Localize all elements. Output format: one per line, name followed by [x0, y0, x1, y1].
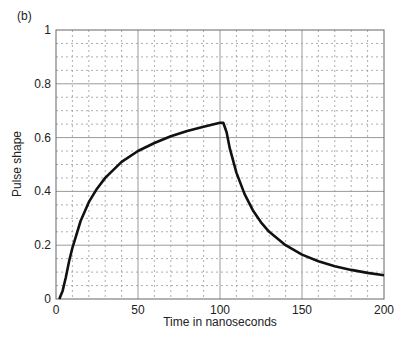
y-axis-label: Pulse shape: [10, 131, 24, 197]
x-tick-label: 200: [374, 303, 394, 317]
y-tick-label: 0.4: [34, 184, 51, 198]
x-tick-label: 150: [292, 303, 312, 317]
y-axis-ticks: 00.20.40.60.81: [34, 23, 51, 306]
y-tick-label: 0.6: [34, 131, 51, 145]
y-tick-label: 0.8: [34, 77, 51, 91]
x-axis-label: Time in nanoseconds: [163, 315, 277, 329]
x-tick-label: 0: [53, 303, 60, 317]
y-tick-label: 0: [44, 292, 51, 306]
x-tick-label: 50: [131, 303, 145, 317]
pulse-curve: [59, 123, 384, 299]
y-tick-label: 1: [44, 23, 51, 37]
pulse-shape-chart: 050100150200 00.20.40.60.81 Time in nano…: [0, 0, 407, 341]
y-tick-label: 0.2: [34, 238, 51, 252]
